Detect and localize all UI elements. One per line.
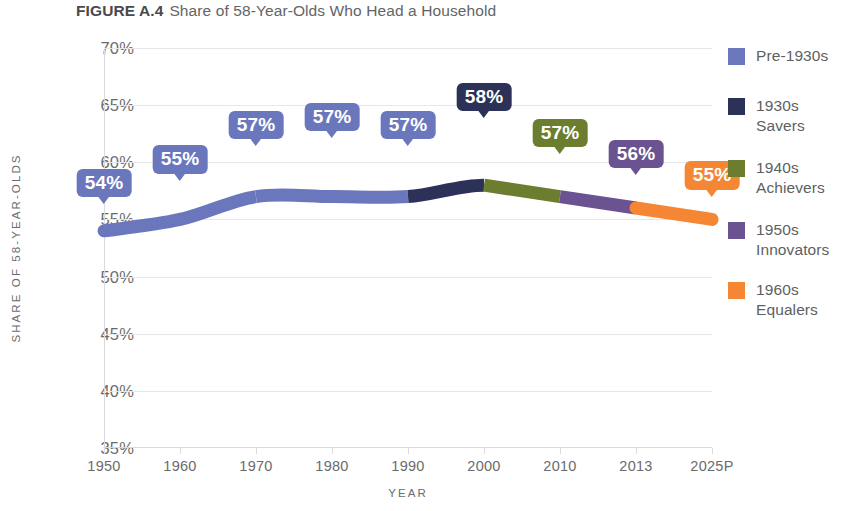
x-axis-tick-label: 1990 bbox=[391, 458, 424, 474]
x-axis-tick-label: 1950 bbox=[87, 458, 120, 474]
x-axis-title: YEAR bbox=[388, 487, 428, 499]
line-series bbox=[104, 48, 712, 448]
x-axis-tick bbox=[484, 448, 485, 454]
data-point-label-text: 54% bbox=[85, 172, 124, 193]
data-point-label-text: 57% bbox=[389, 114, 428, 135]
legend-swatch bbox=[728, 48, 745, 65]
legend-item-1940s-achievers[interactable]: 1940s Achievers bbox=[728, 158, 825, 199]
legend-swatch bbox=[728, 222, 745, 239]
line-segment-pre-1930s bbox=[256, 195, 332, 197]
legend-item-1960s-equalers[interactable]: 1960s Equalers bbox=[728, 280, 818, 321]
x-axis-tick bbox=[332, 448, 333, 454]
x-axis-tick-label: 1980 bbox=[315, 458, 348, 474]
x-axis-tick-label: 1970 bbox=[239, 458, 272, 474]
x-axis-tick bbox=[560, 448, 561, 454]
legend-label: 1930s Savers bbox=[756, 96, 805, 137]
data-point-label: 58% bbox=[457, 83, 512, 111]
chart-plot-area bbox=[104, 48, 712, 448]
data-point-label-text: 55% bbox=[693, 164, 732, 185]
figure-number: FIGURE A.4 bbox=[76, 2, 163, 19]
legend-item-1930s-savers[interactable]: 1930s Savers bbox=[728, 96, 805, 137]
data-point-label: 55% bbox=[153, 145, 208, 173]
legend-label: 1950s Innovators bbox=[756, 220, 829, 261]
legend-label: 1940s Achievers bbox=[756, 158, 825, 199]
x-axis-tick bbox=[180, 448, 181, 454]
legend-swatch bbox=[728, 98, 745, 115]
line-segment-pre-1930s bbox=[180, 197, 256, 220]
y-axis-title: SHARE OF 58-YEAR-OLDS bbox=[10, 153, 22, 342]
data-point-label: 57% bbox=[533, 119, 588, 147]
data-point-label: 57% bbox=[229, 111, 284, 139]
x-axis-tick-label: 2025P bbox=[690, 458, 733, 474]
x-axis-tick bbox=[256, 448, 257, 454]
data-point-label-text: 58% bbox=[465, 86, 504, 107]
x-axis-tick-label: 2000 bbox=[467, 458, 500, 474]
line-segment-pre-1930s bbox=[104, 219, 180, 230]
data-point-label-text: 55% bbox=[161, 148, 200, 169]
data-point-label-text: 57% bbox=[237, 114, 276, 135]
legend-swatch bbox=[728, 282, 745, 299]
legend-label: 1960s Equalers bbox=[756, 280, 818, 321]
data-point-label: 57% bbox=[305, 103, 360, 131]
x-axis-tick-label: 2013 bbox=[619, 458, 652, 474]
x-axis-tick bbox=[636, 448, 637, 454]
line-segment-1930s-savers bbox=[408, 185, 484, 196]
x-axis-tick-label: 1960 bbox=[163, 458, 196, 474]
line-segment-pre-1930s bbox=[332, 197, 408, 198]
x-axis-tick bbox=[408, 448, 409, 454]
data-point-label: 54% bbox=[77, 169, 132, 197]
data-point-label-text: 57% bbox=[541, 122, 580, 143]
legend-item-pre-1930s[interactable]: Pre-1930s bbox=[728, 46, 828, 66]
page-title: FIGURE A.4Share of 58-Year-Olds Who Head… bbox=[76, 2, 496, 20]
line-segment-1940s-achievers bbox=[484, 185, 560, 196]
data-point-label: 57% bbox=[381, 111, 436, 139]
figure-caption: Share of 58-Year-Olds Who Head a Househo… bbox=[169, 2, 496, 19]
legend-label: Pre-1930s bbox=[756, 46, 828, 66]
line-segment-1960s-equalers bbox=[636, 208, 712, 219]
line-segment-1950s-innovators bbox=[560, 197, 636, 208]
legend-swatch bbox=[728, 160, 745, 177]
x-axis-tick bbox=[712, 448, 713, 454]
data-point-label: 56% bbox=[609, 140, 664, 168]
legend-item-1950s-innovators[interactable]: 1950s Innovators bbox=[728, 220, 829, 261]
data-point-label-text: 57% bbox=[313, 106, 352, 127]
x-axis-tick bbox=[104, 448, 105, 454]
x-axis-tick-label: 2010 bbox=[543, 458, 576, 474]
data-point-label-text: 56% bbox=[617, 143, 656, 164]
